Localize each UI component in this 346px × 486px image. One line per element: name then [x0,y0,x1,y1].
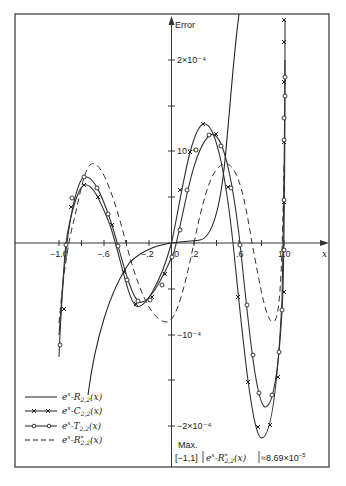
annotation-max-label: Max. [178,440,198,450]
y-tick-label: −2×10⁻⁴ [177,421,212,431]
legend-circle-marker-icon [47,424,51,428]
annotation-expression: ex-R*2,2(x) [206,451,247,464]
series-R-solid [88,14,239,395]
y-axis-title: Error [175,20,195,30]
c-markers [62,18,286,429]
y-tick-label: 2×10⁻⁴ [177,55,206,65]
y-axis-arrow-icon [169,16,175,25]
error-chart: Error x −1.0 −.6 −.2 0 .2 .6 1.0 2×10⁻⁴ … [0,0,346,486]
max-error-annotation: Max. [−1,1] ex-R*2,2(x) ≈8.69×10−5 [175,440,306,464]
x-tick-label: −.6 [97,249,110,259]
legend-circle-marker-icon [32,424,36,428]
x-axis-title: x [322,249,327,259]
legend-entry-C: ex-C2,2(x) [62,404,103,417]
x-tick-label: .6 [236,249,244,259]
y-tick-label: 10⁻⁴ [177,146,196,156]
y-tick-label: −10⁻⁴ [177,330,201,340]
legend-entry-R: ex-R2,2(x) [62,390,103,403]
x-axis-arrow-icon [320,240,329,246]
legend-entry-T: ex-T2,2(x) [62,419,102,432]
annotation-interval: [−1,1] [175,453,198,463]
legend: ex-R2,2(x) ex-C2,2(x) ex-T2,2(x) ex-R*2,… [25,390,103,446]
annotation-value: ≈8.69×10−5 [261,452,306,463]
legend-entry-R-star: ex-R*2,2(x) [62,433,103,446]
